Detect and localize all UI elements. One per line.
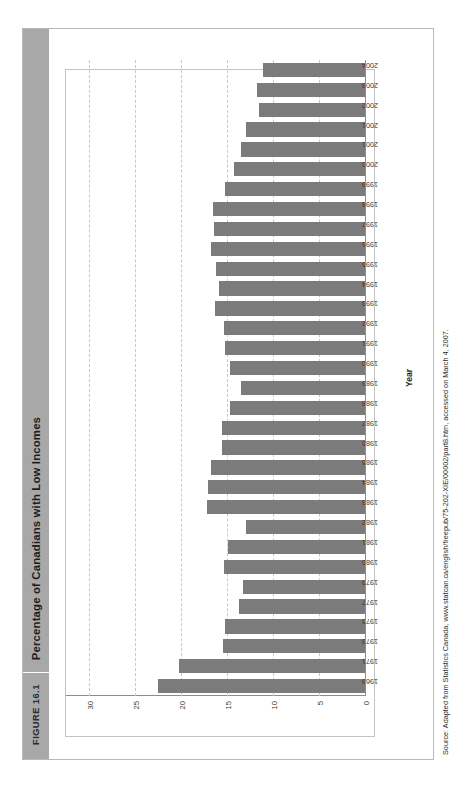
bar (222, 440, 366, 454)
bar (211, 460, 366, 474)
bar-slot: 1973 (90, 636, 366, 656)
bar-slot: 1986 (90, 438, 366, 458)
bar-slot: 1981 (90, 537, 366, 557)
bar (230, 401, 366, 415)
bar (215, 301, 366, 315)
bar-slot: 1975 (90, 617, 366, 637)
value-axis-tick-label: 25 (132, 701, 141, 709)
bar-slot: 1971 (90, 656, 366, 676)
bar (243, 580, 366, 594)
bar (222, 421, 366, 435)
bar-slot: 1991 (90, 338, 366, 358)
value-axis-tick-label: 0 (362, 701, 371, 705)
bar (259, 103, 366, 117)
bar (225, 619, 366, 633)
bar (234, 162, 366, 176)
bar (224, 321, 366, 335)
bar (263, 63, 366, 77)
bar (216, 262, 366, 276)
bar (213, 202, 366, 216)
figure-frame: FIGURE 16.1 Percentage of Canadians with… (22, 28, 434, 760)
bar (257, 83, 366, 97)
bar-slot: 1987 (90, 418, 366, 438)
bar (207, 500, 366, 514)
bar-slot: 2001 (90, 120, 366, 140)
bar-slot: 1982 (90, 517, 366, 537)
bar-slot: 1969 (90, 676, 366, 696)
value-axis-tick-label: 20 (178, 701, 187, 709)
bar-slot: 1994 (90, 279, 366, 299)
bar (225, 182, 366, 196)
bar-slot: 1990 (90, 358, 366, 378)
value-axis-tick-label: 15 (224, 701, 233, 709)
bar (224, 560, 366, 574)
figure-tag: FIGURE 16.1 (31, 673, 41, 759)
figure-header-band: FIGURE 16.1 Percentage of Canadians with… (23, 29, 49, 759)
plot-box: 051015202530 196919711973197519771979198… (65, 69, 375, 737)
bar (219, 281, 366, 295)
bar-slot: 1988 (90, 398, 366, 418)
chart-rotation-wrapper: 051015202530 196919711973197519771979198… (49, 29, 434, 759)
category-axis-title: Year (404, 60, 414, 696)
bar-slot: 1980 (90, 557, 366, 577)
figure-header-inner: FIGURE 16.1 Percentage of Canadians with… (23, 29, 49, 759)
bar (228, 540, 366, 554)
bar-slot: 1995 (90, 259, 366, 279)
bar-slot: 2001 (90, 140, 366, 160)
bar-slot: 1992 (90, 318, 366, 338)
bar (158, 679, 366, 693)
bar-slot: 2000 (90, 159, 366, 179)
value-axis-tick-label: 30 (86, 701, 95, 709)
bar-slot: 1997 (90, 219, 366, 239)
bar-slot: 1989 (90, 378, 366, 398)
bar-slot: 2003 (90, 80, 366, 100)
bar-slot: 2002 (90, 100, 366, 120)
bar (246, 520, 366, 534)
bar (241, 142, 366, 156)
bar-slot: 1993 (90, 299, 366, 319)
bar-slot: 1996 (90, 239, 366, 259)
bar (230, 361, 366, 375)
bar-slot: 1979 (90, 577, 366, 597)
chart-host: 051015202530 196919711973197519771979198… (49, 29, 434, 759)
header-divider (23, 672, 49, 673)
bar (211, 242, 366, 256)
bar (241, 381, 366, 395)
bar (246, 122, 366, 136)
bar (223, 639, 366, 653)
bar-slot: 2004 (90, 60, 366, 80)
bar (214, 222, 366, 236)
bar-slot: 1998 (90, 199, 366, 219)
bar (179, 659, 366, 673)
bar-slot: 1977 (90, 597, 366, 617)
value-axis-tick-label: 10 (270, 701, 279, 709)
source-host: Source: Adapted from Statistics Canada, … (434, 29, 456, 759)
plot-area: 051015202530 196919711973197519771979198… (90, 60, 366, 696)
bar-slot: 1999 (90, 179, 366, 199)
source-rotation-wrapper: Source: Adapted from Statistics Canada, … (434, 29, 456, 759)
value-axis-tick-label: 5 (316, 701, 325, 705)
bar (239, 599, 366, 613)
bar-slot: 1983 (90, 497, 366, 517)
bar-series: 1969197119731975197719791980198119821983… (90, 60, 366, 696)
bar-slot: 1985 (90, 458, 366, 478)
category-axis-line (365, 60, 366, 696)
bar-slot: 1984 (90, 477, 366, 497)
source-note: Source: Adapted from Statistics Canada, … (441, 329, 450, 759)
figure-title: Percentage of Canadians with Low Incomes (30, 417, 42, 672)
bar (225, 341, 366, 355)
bar (208, 480, 366, 494)
